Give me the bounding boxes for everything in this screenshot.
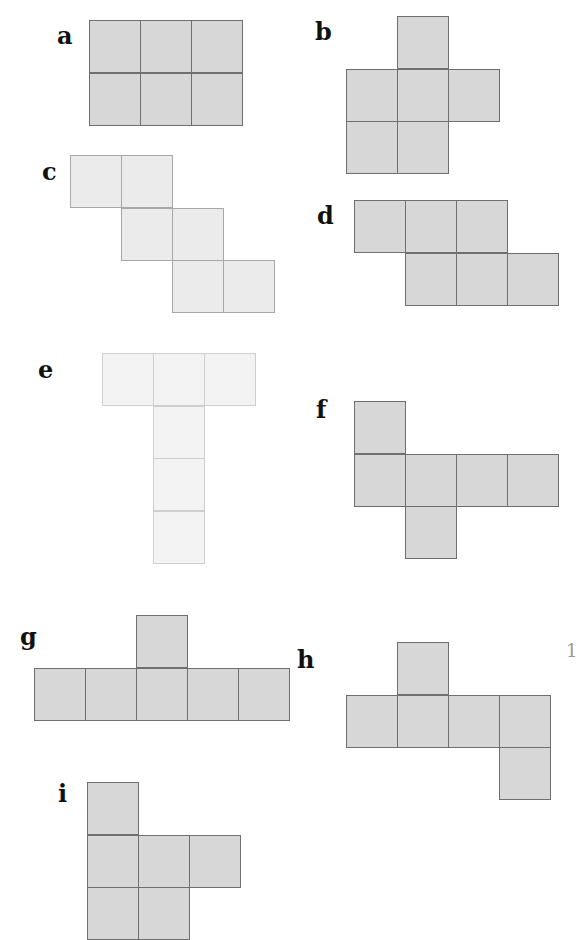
- net-square: [499, 695, 551, 748]
- net-square: [397, 642, 449, 695]
- net-square: [204, 353, 256, 406]
- net-square: [187, 668, 239, 721]
- net-square: [191, 20, 243, 73]
- net-square: [191, 73, 243, 126]
- net-square: [405, 506, 457, 559]
- net-square: [354, 454, 406, 507]
- net-label: d: [317, 204, 334, 228]
- net-square: [89, 20, 141, 73]
- net-square: [172, 208, 224, 261]
- net-square: [507, 253, 559, 306]
- net-square: [499, 747, 551, 800]
- net-square: [448, 695, 500, 748]
- net-square: [153, 353, 205, 406]
- net-square: [87, 887, 139, 940]
- net-square: [153, 406, 205, 459]
- net-square: [140, 20, 192, 73]
- net-square: [448, 69, 500, 122]
- net-label: g: [20, 625, 37, 649]
- net-label: c: [42, 160, 57, 184]
- net-square: [172, 260, 224, 313]
- net-square: [397, 695, 449, 748]
- net-square: [405, 454, 457, 507]
- net-square: [346, 121, 398, 174]
- net-square: [70, 155, 122, 208]
- net-square: [397, 16, 449, 69]
- net-square: [456, 200, 508, 253]
- net-label: b: [315, 20, 332, 44]
- net-square: [89, 73, 141, 126]
- net-square: [405, 200, 457, 253]
- net-square: [34, 668, 86, 721]
- clipped-text-fragment: 1: [566, 640, 577, 661]
- net-label: h: [297, 648, 314, 672]
- net-square: [346, 69, 398, 122]
- net-square: [87, 782, 139, 835]
- net-square: [87, 835, 139, 888]
- net-label: i: [58, 782, 67, 806]
- net-square: [102, 353, 154, 406]
- net-square: [354, 200, 406, 253]
- net-square: [138, 835, 190, 888]
- net-square: [397, 69, 449, 122]
- net-square: [238, 668, 290, 721]
- net-square: [223, 260, 275, 313]
- net-square: [136, 615, 188, 668]
- net-square: [189, 835, 241, 888]
- net-square: [153, 511, 205, 564]
- net-square: [121, 155, 173, 208]
- net-square: [136, 668, 188, 721]
- net-label: f: [316, 398, 326, 422]
- net-square: [456, 454, 508, 507]
- net-label: a: [57, 24, 73, 48]
- net-square: [121, 208, 173, 261]
- net-square: [140, 73, 192, 126]
- net-square: [153, 458, 205, 511]
- net-square: [85, 668, 137, 721]
- net-square: [138, 887, 190, 940]
- net-square: [346, 695, 398, 748]
- net-square: [405, 253, 457, 306]
- net-label: e: [38, 358, 53, 382]
- net-square: [456, 253, 508, 306]
- net-square: [354, 401, 406, 454]
- net-square: [397, 121, 449, 174]
- net-square: [507, 454, 559, 507]
